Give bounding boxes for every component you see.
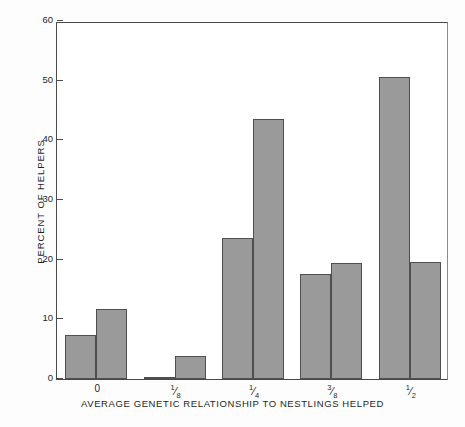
x-axis-title: AVERAGE GENETIC RELATIONSHIP TO NESTLING…: [0, 398, 465, 409]
y-tick: 60: [57, 20, 63, 21]
y-tick: 40: [57, 139, 63, 140]
bar: [175, 356, 206, 379]
bar: [144, 377, 175, 379]
y-tick-label: 20: [42, 253, 53, 264]
y-tick-label: 50: [42, 74, 53, 85]
y-tick-label: 30: [42, 193, 53, 204]
y-tick-label: 0: [48, 372, 53, 383]
bar: [331, 263, 362, 379]
bar: [96, 309, 127, 379]
y-tick: 30: [57, 199, 63, 200]
bar: [410, 262, 441, 379]
y-tick: 20: [57, 259, 63, 260]
y-tick-label: 10: [42, 312, 53, 323]
bar: [222, 238, 253, 379]
y-tick: 10: [57, 318, 63, 319]
bar: [300, 274, 331, 379]
bar: [65, 335, 96, 379]
y-tick: 50: [57, 80, 63, 81]
chart-figure: PERCENT OF HELPERS 0102030405060 01⁄81⁄4…: [0, 0, 465, 427]
bar: [253, 119, 284, 379]
bar: [379, 77, 410, 379]
y-tick-label: 40: [42, 133, 53, 144]
plot-area: 0102030405060 01⁄81⁄43⁄81⁄2: [56, 22, 448, 380]
y-tick-label: 60: [42, 14, 53, 25]
x-tick-label: 0: [77, 383, 117, 394]
y-tick: 0: [57, 378, 63, 379]
